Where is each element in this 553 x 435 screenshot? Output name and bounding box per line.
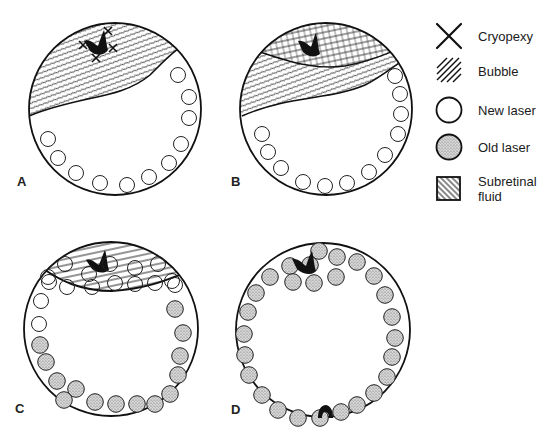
old-laser-spot	[290, 410, 307, 427]
subretinal-fluid-legend-icon	[437, 177, 460, 200]
new-laser-spot	[394, 107, 409, 122]
old-laser-legend-icon	[437, 135, 462, 160]
old-laser-spot	[147, 396, 164, 413]
old-laser-spot	[248, 285, 265, 302]
new-laser-spot	[51, 151, 66, 166]
old-laser-spot	[236, 326, 253, 343]
old-laser-spot	[384, 349, 401, 366]
new-laser-spot	[171, 68, 186, 83]
panel-label-d: D	[231, 402, 240, 417]
new-laser-spot	[34, 294, 49, 309]
panel-label-a: A	[17, 174, 27, 189]
legend-label-subretinal-fluid: Subretinal fluid	[478, 174, 537, 204]
legend	[437, 24, 462, 200]
old-laser-spot	[384, 309, 401, 326]
new-laser-spot	[142, 170, 157, 185]
legend-label-bubble: Bubble	[478, 64, 518, 79]
old-laser-spot	[49, 373, 66, 390]
old-laser-spot	[328, 269, 345, 286]
cryopexy-legend-icon	[437, 24, 461, 48]
old-laser-spot	[108, 396, 125, 413]
panel-a	[20, 20, 201, 195]
new-laser-spot	[388, 69, 403, 84]
old-laser-spot	[172, 348, 189, 365]
new-laser-spot	[168, 278, 183, 293]
new-laser-spot	[340, 176, 355, 191]
old-laser-spot	[379, 369, 396, 386]
new-laser-spot	[174, 137, 189, 152]
new-laser-spot	[120, 178, 135, 193]
old-laser-spot	[285, 274, 302, 291]
old-laser-spot	[167, 301, 184, 318]
new-laser-spot	[182, 90, 197, 105]
old-laser-spot	[162, 386, 179, 403]
new-laser-spot	[261, 145, 276, 160]
old-laser-spot	[366, 268, 383, 285]
new-laser-spot	[255, 127, 270, 142]
new-laser-spot	[69, 166, 84, 181]
new-laser-spot	[42, 275, 57, 290]
legend-label-subretinal-line1: Subretinal	[478, 174, 537, 189]
old-laser-spot	[333, 404, 350, 421]
subretinal-fluid-region-a	[20, 20, 200, 116]
gas-bubble-c	[20, 230, 200, 291]
legend-label-old-laser: Old laser	[478, 140, 530, 155]
old-laser-spot	[349, 254, 366, 271]
new-laser-spot	[393, 87, 408, 102]
old-laser-spot	[377, 287, 394, 304]
old-laser-spot	[170, 367, 187, 384]
panel-label-b: B	[231, 174, 240, 189]
new-laser-spot	[162, 156, 177, 171]
old-laser-spot	[254, 387, 271, 404]
new-laser-spot	[378, 148, 393, 163]
new-laser-spot	[182, 111, 197, 126]
old-laser-spot	[129, 396, 146, 413]
new-laser-spot	[318, 179, 333, 194]
old-laser-spot	[349, 397, 366, 414]
panel-c	[20, 230, 200, 416]
old-laser-spot	[262, 269, 279, 286]
new-laser-spot	[93, 176, 108, 191]
old-laser-spot	[241, 367, 258, 384]
old-laser-spot	[387, 330, 404, 347]
new-laser-spot	[391, 127, 406, 142]
new-laser-spot	[296, 175, 311, 190]
legend-label-cryopexy: Cryopexy	[478, 29, 533, 44]
old-laser-spot	[175, 325, 192, 342]
retinal-detachment-diagram: A B C	[0, 0, 553, 435]
panel-d	[236, 243, 410, 427]
new-laser-spot	[41, 132, 56, 147]
new-laser-spot	[274, 161, 289, 176]
panel-label-c: C	[15, 401, 25, 416]
old-laser-spot	[270, 402, 287, 419]
old-laser-spot	[366, 385, 383, 402]
legend-label-subretinal-line2: fluid	[478, 189, 537, 204]
old-laser-spot	[306, 275, 323, 292]
old-laser-spot	[38, 354, 55, 371]
new-laser-spot	[362, 165, 377, 180]
legend-label-new-laser: New laser	[478, 103, 536, 118]
panel-b	[240, 15, 415, 195]
old-laser-spot	[329, 249, 346, 266]
old-laser-spot	[87, 394, 104, 411]
old-laser-spot	[56, 392, 73, 409]
old-laser-spot	[32, 337, 49, 354]
old-laser-spot	[240, 304, 257, 321]
bubble-legend-icon	[437, 58, 461, 82]
new-laser-legend-icon	[437, 98, 462, 123]
figure-stage: A B C	[0, 0, 553, 435]
old-laser-spot	[237, 347, 254, 364]
new-laser-spot	[32, 317, 47, 332]
